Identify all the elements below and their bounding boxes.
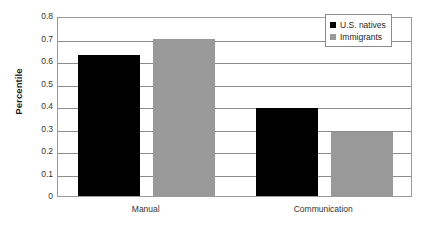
- y-axis-tick-label: 0.8: [13, 11, 53, 21]
- x-axis-category-label: Manual: [86, 204, 206, 214]
- legend-swatch-icon: [330, 22, 336, 28]
- bar-manual-u-s-natives: [78, 55, 140, 196]
- y-axis-tick-label: 0.4: [13, 101, 53, 111]
- y-axis-tick-label: 0.7: [13, 34, 53, 44]
- legend-label: Immigrants: [340, 32, 382, 42]
- y-axis-tick-label: 0.2: [13, 146, 53, 156]
- y-axis-tick-label: 0.1: [13, 169, 53, 179]
- y-axis-tick-label: 0: [13, 191, 53, 201]
- bar-chart: Percentile 0.80.70.60.50.40.30.20.10 Man…: [0, 0, 427, 229]
- legend-label: U.S. natives: [340, 20, 386, 30]
- legend: U.S. nativesImmigrants: [325, 14, 392, 47]
- bar-communication-u-s-natives: [256, 108, 318, 196]
- y-axis-tick-label: 0.5: [13, 79, 53, 89]
- legend-item: Immigrants: [330, 31, 386, 42]
- legend-swatch-icon: [330, 34, 336, 40]
- y-axis-tick-label: 0.6: [13, 56, 53, 66]
- legend-item: U.S. natives: [330, 19, 386, 30]
- y-axis-tick-label: 0.3: [13, 124, 53, 134]
- bar-manual-immigrants: [153, 39, 215, 197]
- x-axis-category-label: Communication: [263, 204, 383, 214]
- bar-communication-immigrants: [331, 132, 393, 196]
